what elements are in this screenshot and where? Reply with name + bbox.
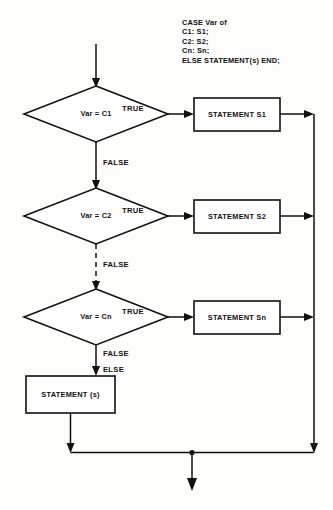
- pseudo-code-line-2: C1: S1;: [182, 27, 332, 36]
- edge-decision3-true: [168, 313, 194, 321]
- statement-box-3[interactable]: STATEMENT Sn: [194, 301, 280, 334]
- edge-statement1-to-rail: [280, 110, 314, 118]
- edge-decision2-true: [168, 212, 194, 220]
- edge-decision2-false-dashed: [92, 244, 100, 291]
- edge-label-decision2-false: FALSE: [103, 260, 129, 269]
- pseudo-code-block: CASE Var of C1: S1; C2: S2; Cn: Sn; ELSE…: [182, 18, 332, 65]
- flowchart-svg: Var = C1 STATEMENT S1 Var = C2: [0, 0, 333, 510]
- statement-box-2[interactable]: STATEMENT S2: [194, 200, 280, 233]
- decision-node-1-label: Var = C1: [81, 109, 112, 118]
- statement-box-1-label: STATEMENT S1: [208, 110, 266, 119]
- pseudo-code-line-3: C2: S2;: [182, 37, 332, 46]
- decision-node-3-label: Var = Cn: [80, 312, 112, 321]
- else-statement-box-label: STATEMENT (s): [41, 390, 100, 399]
- edge-label-decision3-true: TRUE: [122, 307, 144, 316]
- pseudo-code-line-4: Cn: Sn;: [182, 46, 332, 55]
- edge-label-decision2-true: TRUE: [122, 206, 144, 215]
- entry-connector: [92, 44, 100, 88]
- decision-node-2-label: Var = C2: [81, 211, 112, 220]
- decision-node-1[interactable]: Var = C1: [24, 86, 168, 142]
- edge-label-decision3-false: FALSE: [103, 349, 129, 358]
- statement-box-2-label: STATEMENT S2: [208, 212, 266, 221]
- pseudo-code-line-5: ELSE STATEMENT(s) END;: [182, 56, 332, 65]
- right-rail: [310, 114, 318, 453]
- statement-box-1[interactable]: STATEMENT S1: [194, 98, 280, 131]
- edge-label-decision1-false: FALSE: [103, 158, 129, 167]
- flowchart-canvas: Var = C1 STATEMENT S1 Var = C2: [0, 0, 333, 510]
- edge-else-to-merge: [67, 413, 75, 453]
- decision-node-2[interactable]: Var = C2: [24, 188, 168, 244]
- edge-decision1-true: [168, 110, 194, 118]
- edge-decision1-false: [92, 142, 100, 190]
- pseudo-code-line-1: CASE Var of: [182, 18, 332, 27]
- edge-label-else: ELSE: [103, 365, 124, 374]
- edge-statement3-to-rail: [280, 313, 314, 321]
- statement-box-3-label: STATEMENT Sn: [208, 313, 267, 322]
- edge-statement2-to-rail: [280, 212, 314, 220]
- else-statement-box[interactable]: STATEMENT (s): [26, 376, 115, 413]
- edge-decision3-false-else: [92, 345, 100, 376]
- edge-label-decision1-true: TRUE: [122, 104, 144, 113]
- exit-connector: [187, 453, 197, 492]
- decision-node-3[interactable]: Var = Cn: [24, 289, 168, 345]
